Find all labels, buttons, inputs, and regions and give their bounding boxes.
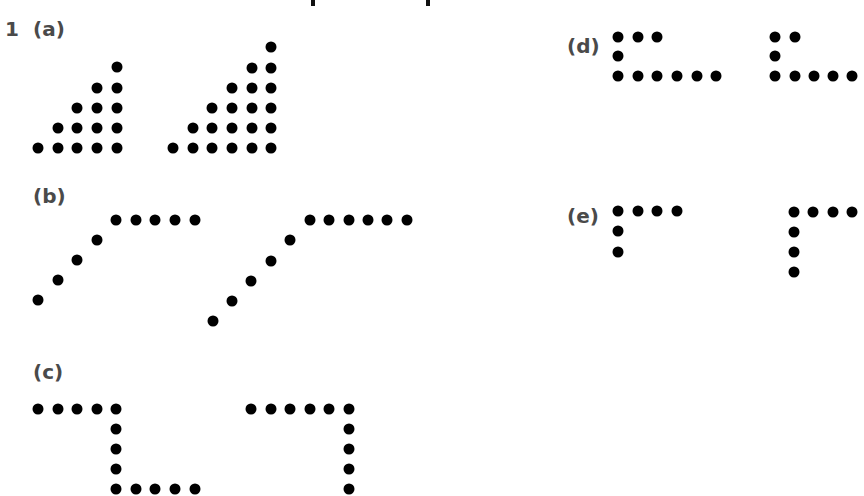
dot bbox=[168, 143, 179, 154]
dot bbox=[770, 32, 781, 43]
part-d-label: (d) bbox=[567, 36, 600, 56]
dot bbox=[344, 404, 355, 415]
dot bbox=[633, 206, 644, 217]
dot bbox=[207, 103, 218, 114]
dot bbox=[112, 123, 123, 134]
dot bbox=[652, 206, 663, 217]
dot bbox=[150, 484, 161, 495]
dot bbox=[266, 143, 277, 154]
dot bbox=[247, 123, 258, 134]
dot bbox=[247, 83, 258, 94]
dot bbox=[285, 235, 296, 246]
dot bbox=[190, 215, 201, 226]
dot bbox=[53, 123, 64, 134]
dot bbox=[188, 123, 199, 134]
dot bbox=[33, 295, 44, 306]
dot bbox=[53, 275, 64, 286]
dot bbox=[808, 207, 819, 218]
dot bbox=[227, 103, 238, 114]
dot bbox=[112, 103, 123, 114]
dot bbox=[227, 143, 238, 154]
dot bbox=[613, 32, 624, 43]
dot bbox=[207, 143, 218, 154]
dot bbox=[247, 63, 258, 74]
dot bbox=[789, 207, 800, 218]
dot bbox=[344, 424, 355, 435]
dot bbox=[266, 103, 277, 114]
dot bbox=[247, 143, 258, 154]
dot bbox=[344, 464, 355, 475]
dot bbox=[770, 51, 781, 62]
dot bbox=[111, 444, 122, 455]
dot bbox=[92, 404, 103, 415]
dot bbox=[770, 71, 781, 82]
dot bbox=[828, 207, 839, 218]
dot bbox=[72, 255, 83, 266]
dot bbox=[652, 32, 663, 43]
question-number: 1 bbox=[5, 19, 19, 39]
dot bbox=[305, 215, 316, 226]
dot bbox=[227, 123, 238, 134]
dot bbox=[828, 71, 839, 82]
dot bbox=[33, 143, 44, 154]
dot bbox=[190, 484, 201, 495]
dot bbox=[72, 103, 83, 114]
dot bbox=[92, 123, 103, 134]
dot bbox=[111, 464, 122, 475]
dot bbox=[227, 83, 238, 94]
dot bbox=[790, 71, 801, 82]
dot bbox=[266, 83, 277, 94]
dot bbox=[188, 143, 199, 154]
dot bbox=[92, 83, 103, 94]
dot bbox=[112, 62, 123, 73]
dot bbox=[672, 71, 683, 82]
dot bbox=[672, 206, 683, 217]
part-c-label: (c) bbox=[33, 362, 63, 382]
dot bbox=[246, 404, 257, 415]
dot bbox=[633, 32, 644, 43]
dot bbox=[111, 424, 122, 435]
dot bbox=[111, 404, 122, 415]
dot bbox=[53, 404, 64, 415]
dot bbox=[711, 71, 722, 82]
dot bbox=[207, 123, 218, 134]
dot bbox=[402, 215, 413, 226]
dot bbox=[266, 123, 277, 134]
dot bbox=[72, 123, 83, 134]
dot bbox=[53, 143, 64, 154]
dot bbox=[633, 71, 644, 82]
dot bbox=[266, 42, 277, 53]
dot bbox=[344, 444, 355, 455]
dot bbox=[809, 71, 820, 82]
dot bbox=[92, 143, 103, 154]
dot bbox=[92, 235, 103, 246]
part-e-label: (e) bbox=[567, 206, 599, 226]
dot bbox=[324, 215, 335, 226]
dot bbox=[789, 267, 800, 278]
dot bbox=[363, 215, 374, 226]
dot bbox=[613, 71, 624, 82]
dot bbox=[285, 404, 296, 415]
dot bbox=[789, 227, 800, 238]
dot bbox=[266, 63, 277, 74]
dot bbox=[112, 143, 123, 154]
dot bbox=[247, 103, 258, 114]
dot bbox=[305, 404, 316, 415]
dot bbox=[92, 103, 103, 114]
dot bbox=[170, 484, 181, 495]
dot bbox=[72, 143, 83, 154]
dot bbox=[847, 207, 858, 218]
clipped-heading-fragment bbox=[426, 0, 430, 6]
dot bbox=[111, 484, 122, 495]
dot bbox=[131, 484, 142, 495]
dot bbox=[112, 83, 123, 94]
dot bbox=[131, 215, 142, 226]
dot bbox=[324, 404, 335, 415]
dot bbox=[150, 215, 161, 226]
dot bbox=[246, 276, 257, 287]
part-b-label: (b) bbox=[33, 186, 66, 206]
dot bbox=[613, 226, 624, 237]
dot bbox=[344, 484, 355, 495]
dot bbox=[652, 71, 663, 82]
dot bbox=[790, 32, 801, 43]
